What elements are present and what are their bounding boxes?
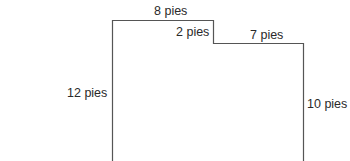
label-right-height: 10 pies — [307, 98, 347, 111]
label-step-height: 2 pies — [176, 26, 209, 39]
shape-outline — [0, 0, 350, 161]
label-top-width: 8 pies — [154, 5, 187, 18]
label-right-top-width: 7 pies — [250, 29, 283, 42]
label-left-height: 12 pies — [67, 87, 107, 100]
